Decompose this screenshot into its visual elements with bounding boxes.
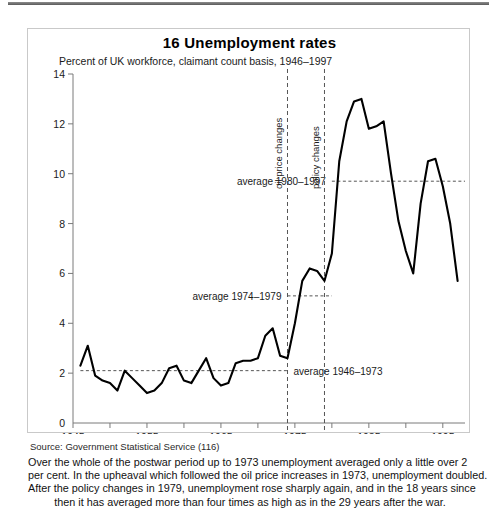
line-chart-svg: 02468101214194519551965197519851995avera… xyxy=(28,29,471,434)
caption-line-1: Over the whole of the postwar period up … xyxy=(28,456,472,469)
y-tick-label: 6 xyxy=(59,267,65,279)
y-tick-label: 4 xyxy=(59,317,65,329)
source-note: Source: Government Statistical Service (… xyxy=(30,441,219,452)
y-tick-label: 8 xyxy=(59,218,65,230)
average-reference-label: average 1974–1979 xyxy=(193,291,282,302)
average-reference-label: average 1946–1973 xyxy=(293,366,382,377)
page-top-rule xyxy=(8,2,489,5)
figure-page: 16 Unemployment rates Percent of UK work… xyxy=(0,0,497,515)
caption-line-2: per cent. In the upheaval which followed… xyxy=(28,469,472,482)
event-marker-label: policy changes xyxy=(310,126,321,189)
y-tick-label: 0 xyxy=(59,417,65,429)
x-tick-label: 1955 xyxy=(135,431,159,434)
chart-panel: 16 Unemployment rates Percent of UK work… xyxy=(27,28,470,433)
y-tick-label: 2 xyxy=(59,367,65,379)
x-tick-label: 1975 xyxy=(283,431,307,434)
event-marker-label: oil price changes xyxy=(273,117,284,189)
x-tick-label: 1995 xyxy=(431,431,455,434)
y-tick-label: 12 xyxy=(53,118,65,130)
y-tick-label: 10 xyxy=(53,168,65,180)
unemployment-rate-line xyxy=(80,99,457,393)
y-tick-label: 14 xyxy=(53,68,65,80)
x-tick-label: 1985 xyxy=(357,431,381,434)
caption-line-4: then it has averaged more than four time… xyxy=(28,496,472,509)
chart-plot-area: 02468101214194519551965197519851995avera… xyxy=(28,29,471,434)
x-tick-label: 1965 xyxy=(209,431,233,434)
x-tick-label: 1945 xyxy=(61,431,85,434)
caption-block: Over the whole of the postwar period up … xyxy=(28,456,472,509)
caption-line-3: After the policy changes in 1979, unempl… xyxy=(28,482,472,495)
